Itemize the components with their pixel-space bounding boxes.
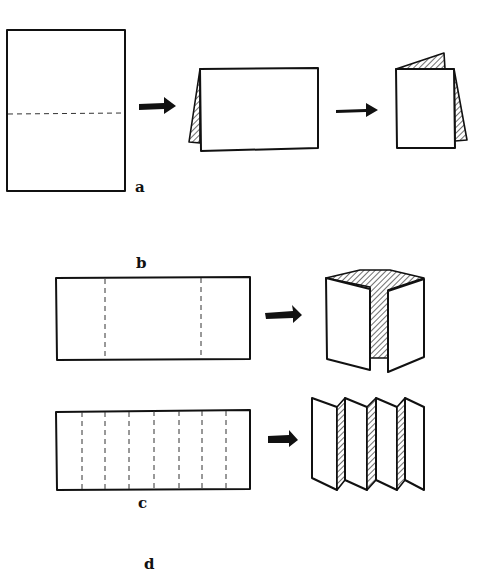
- label-c: c: [138, 496, 147, 511]
- row-a-arrow-icon-2: [336, 103, 378, 117]
- row-b-gate-fold: [326, 270, 424, 372]
- row-a-arrow-icon-1: [139, 97, 176, 114]
- row-c-accordion-fold: [312, 398, 424, 490]
- row-c-arrow-icon: [268, 430, 298, 447]
- row-a-tent-card: [189, 68, 318, 151]
- label-a: a: [135, 180, 145, 195]
- row-b-flat-sheet: [56, 277, 250, 360]
- row-c-flat-sheet: [56, 410, 250, 490]
- label-b: b: [136, 256, 147, 271]
- row-a-flat-sheet: [7, 30, 125, 191]
- label-d: d: [144, 557, 155, 572]
- row-a-folded-booklet: [396, 53, 467, 148]
- row-b-arrow-icon: [265, 305, 302, 323]
